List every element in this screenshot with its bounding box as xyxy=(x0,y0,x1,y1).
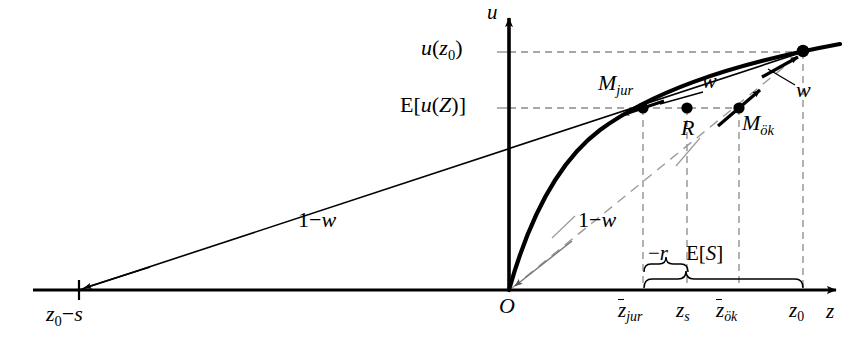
point-label-R: R xyxy=(681,117,694,139)
leader-one-minus-w-right xyxy=(552,216,575,238)
x-tick-label-z-s: zs xyxy=(676,300,690,324)
point-upper-right xyxy=(797,45,809,57)
x-tick-label-z-bar-jur: zjur xyxy=(618,300,642,324)
x-tick-label-z0-minus-s: z0−s xyxy=(46,303,83,328)
weight-label-w-right: w xyxy=(796,79,811,101)
weight-label-one-minus-w-left: 1−w xyxy=(298,209,336,231)
figure-canvas: u z O u(z0) E[u(Z)] z0−s zjur zs zök z0 … xyxy=(0,0,864,346)
x-axis-label: z xyxy=(826,301,834,322)
brace-E-S-path xyxy=(644,271,803,288)
chord-arrow-to-z0-minus-s xyxy=(84,267,150,288)
brace-label-E-S: E[S] xyxy=(686,243,723,264)
leader-w-right xyxy=(768,69,795,85)
origin-label: O xyxy=(499,295,515,317)
point-label-M-jur: Mjur xyxy=(598,72,633,97)
x-tick-label-z-0: z0 xyxy=(789,300,804,324)
y-axis-label: u xyxy=(487,2,498,23)
leader-R xyxy=(676,138,700,166)
utility-curve xyxy=(509,44,840,290)
weight-label-one-minus-w-right: 1−w xyxy=(578,209,616,231)
point-label-M-oek: Mök xyxy=(742,112,774,137)
y-tick-label-E-u-Z: E[u(Z)] xyxy=(400,94,466,116)
x-tick-label-z-bar-oek: zök xyxy=(716,300,737,324)
y-tick-label-u-z0: u(z0) xyxy=(421,37,462,62)
weight-label-w-left: w xyxy=(702,70,717,92)
point-R xyxy=(681,102,692,113)
brace-label-minus-r: −r xyxy=(648,243,668,264)
